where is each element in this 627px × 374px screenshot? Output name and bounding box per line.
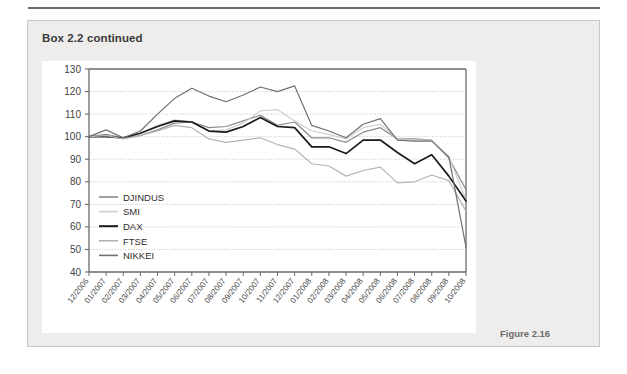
svg-text:40: 40 xyxy=(70,267,82,278)
svg-text:100: 100 xyxy=(64,131,81,142)
svg-text:SMI: SMI xyxy=(123,206,140,217)
chart-panel: 130120110100908070605040 12/200601/20070… xyxy=(42,61,476,333)
svg-text:NIKKEI: NIKKEI xyxy=(123,250,154,261)
svg-text:FTSE: FTSE xyxy=(123,236,147,247)
box-container: Box 2.2 continued 1301201101009080706050… xyxy=(27,20,600,347)
y-axis-tick-labels: 130120110100908070605040 xyxy=(64,64,89,278)
index-performance-line-chart: 130120110100908070605040 12/200601/20070… xyxy=(42,61,476,333)
svg-text:90: 90 xyxy=(70,154,82,165)
svg-text:110: 110 xyxy=(65,109,81,120)
svg-text:130: 130 xyxy=(64,64,81,75)
page-root: Box 2.2 continued 1301201101009080706050… xyxy=(0,0,627,374)
svg-text:70: 70 xyxy=(70,199,82,210)
box-title: Box 2.2 continued xyxy=(42,32,143,44)
chart-gridlines xyxy=(89,92,466,250)
svg-text:60: 60 xyxy=(70,221,82,232)
svg-text:80: 80 xyxy=(70,176,82,187)
svg-text:DJINDUS: DJINDUS xyxy=(123,192,164,203)
svg-text:50: 50 xyxy=(70,244,82,255)
chart-series-lines xyxy=(89,86,466,247)
svg-text:120: 120 xyxy=(64,86,81,97)
x-axis-tick-labels: 12/200601/200702/200703/200704/200705/20… xyxy=(66,272,468,305)
figure-caption: Figure 2.16 xyxy=(500,328,550,339)
svg-text:DAX: DAX xyxy=(123,221,143,232)
page-top-rule xyxy=(28,7,600,9)
